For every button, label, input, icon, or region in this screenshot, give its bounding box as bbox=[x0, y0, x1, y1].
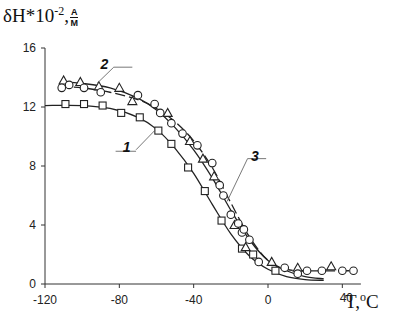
circle-marker bbox=[220, 192, 228, 200]
x-axis-title-unit: C bbox=[366, 291, 379, 312]
circle-marker bbox=[339, 267, 347, 275]
square-marker bbox=[136, 114, 143, 121]
y-tick-label: 4 bbox=[29, 218, 36, 232]
x-tick-label: -120 bbox=[33, 293, 57, 307]
x-axis-title-main: T, bbox=[345, 291, 360, 312]
circle-marker bbox=[255, 258, 263, 266]
square-marker bbox=[185, 164, 192, 171]
curve-labels: 123 bbox=[97, 56, 266, 201]
circle-marker bbox=[234, 220, 242, 228]
square-marker bbox=[250, 251, 257, 258]
y-tick-label: 8 bbox=[29, 159, 36, 173]
circle-marker bbox=[208, 159, 216, 167]
label-leader-line bbox=[227, 159, 247, 202]
data-markers bbox=[58, 76, 357, 278]
circle-marker bbox=[281, 264, 289, 272]
square-marker bbox=[272, 267, 279, 274]
x-axis-title: T,oC bbox=[345, 290, 379, 313]
fit-curve-3 bbox=[60, 86, 352, 270]
circle-marker bbox=[318, 267, 326, 275]
fit-curve-2 bbox=[60, 82, 324, 279]
circle-marker bbox=[350, 267, 358, 275]
square-marker bbox=[201, 188, 208, 195]
circle-marker bbox=[97, 88, 105, 96]
circle-marker bbox=[227, 211, 235, 219]
axes: 0481216-120-80-40040 bbox=[23, 41, 361, 307]
triangle-marker bbox=[327, 262, 336, 270]
circle-marker bbox=[179, 130, 187, 138]
y-tick-label: 12 bbox=[23, 100, 37, 114]
square-marker bbox=[81, 101, 88, 108]
circle-marker bbox=[246, 236, 254, 244]
circle-marker bbox=[156, 109, 164, 117]
circle-marker bbox=[216, 181, 224, 189]
circle-marker bbox=[134, 91, 142, 99]
square-marker bbox=[118, 109, 125, 116]
circle-marker bbox=[240, 226, 248, 234]
curve-label-3: 3 bbox=[251, 148, 259, 164]
x-tick-label: -40 bbox=[185, 293, 203, 307]
fit-curves bbox=[45, 82, 352, 280]
square-marker bbox=[218, 217, 225, 224]
square-marker bbox=[62, 101, 69, 108]
y-tick-label: 16 bbox=[23, 41, 37, 55]
label-leader-line bbox=[136, 131, 155, 150]
square-marker bbox=[99, 102, 106, 109]
x-tick-label: 0 bbox=[265, 293, 272, 307]
circle-marker bbox=[168, 119, 176, 127]
square-marker bbox=[168, 140, 175, 147]
circle-marker bbox=[194, 142, 202, 150]
circle-marker bbox=[294, 270, 302, 278]
square-marker bbox=[155, 127, 162, 134]
circle-marker bbox=[80, 84, 88, 92]
chart-plot: 0481216-120-80-40040 123 bbox=[0, 0, 393, 318]
triangle-marker bbox=[115, 83, 124, 91]
circle-marker bbox=[303, 267, 311, 275]
circle-marker bbox=[58, 84, 66, 92]
circle-marker bbox=[151, 100, 159, 108]
circle-marker bbox=[65, 81, 73, 89]
x-tick-label: -80 bbox=[111, 293, 129, 307]
curve-label-1: 1 bbox=[123, 139, 131, 155]
curve-label-2: 2 bbox=[100, 56, 109, 72]
y-tick-label: 0 bbox=[29, 277, 36, 291]
